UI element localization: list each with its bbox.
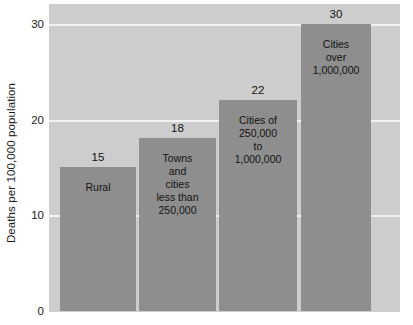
bar-towns-under-250000[interactable]: Towns and cities less than 250,000 bbox=[139, 138, 216, 311]
bar-chart: Deaths per 100,000 population 30 20 10 0… bbox=[0, 0, 413, 325]
y-tick-label-20: 20 bbox=[18, 114, 44, 126]
bar-towns-caption-line-3: cities bbox=[139, 178, 216, 191]
y-tick-label-30: 30 bbox=[18, 18, 44, 30]
bar-cities-large-caption-line-3: 1,000,000 bbox=[301, 64, 371, 77]
bar-cities-mid-caption: Cities of 250,000 to 1,000,000 bbox=[219, 114, 297, 166]
bar-rural-value: 15 bbox=[60, 151, 136, 164]
bar-cities-mid-caption-line-3: to bbox=[219, 140, 297, 153]
y-tick-label-0: 0 bbox=[18, 305, 44, 317]
bar-cities-large-caption-line-2: over bbox=[301, 51, 371, 64]
bar-cities-over-1000000[interactable]: Cities over 1,000,000 bbox=[301, 24, 371, 311]
bar-cities-mid-caption-line-2: 250,000 bbox=[219, 127, 297, 140]
bar-towns-caption-line-1: Towns bbox=[139, 152, 216, 165]
y-axis-tick-labels: 30 20 10 0 bbox=[18, 0, 44, 325]
bar-cities-large-caption: Cities over 1,000,000 bbox=[301, 38, 371, 77]
bar-cities-mid-caption-line-4: 1,000,000 bbox=[219, 153, 297, 166]
bar-towns-caption: Towns and cities less than 250,000 bbox=[139, 152, 216, 217]
bar-cities-large-value: 30 bbox=[301, 8, 371, 21]
bar-towns-caption-line-4: less than bbox=[139, 191, 216, 204]
bar-towns-caption-line-2: and bbox=[139, 165, 216, 178]
bar-towns-caption-line-5: 250,000 bbox=[139, 204, 216, 217]
bar-rural[interactable]: Rural bbox=[60, 167, 136, 311]
plot-area: Rural 15 Towns and cities less than 250,… bbox=[49, 4, 400, 311]
y-axis-title-text: Deaths per 100,000 population bbox=[5, 82, 17, 242]
x-axis-baseline bbox=[49, 311, 400, 312]
y-tick-label-10: 10 bbox=[18, 209, 44, 221]
bar-cities-250000-to-1000000[interactable]: Cities of 250,000 to 1,000,000 bbox=[219, 100, 297, 311]
bar-cities-mid-value: 22 bbox=[219, 84, 297, 97]
bar-cities-large-caption-line-1: Cities bbox=[301, 38, 371, 51]
bar-towns-value: 18 bbox=[139, 122, 216, 135]
bar-rural-caption-line-1: Rural bbox=[60, 181, 136, 194]
bar-rural-caption: Rural bbox=[60, 181, 136, 194]
bar-cities-mid-caption-line-1: Cities of bbox=[219, 114, 297, 127]
